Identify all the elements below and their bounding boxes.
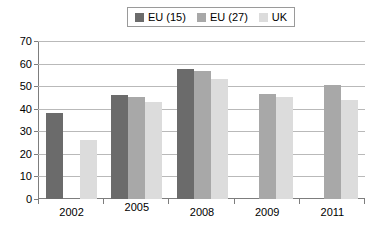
y-tick-mark — [34, 154, 38, 155]
bar-slot — [211, 41, 228, 199]
legend-item-eu27: EU (27) — [197, 12, 248, 23]
chart-legend: EU (15) EU (27) UK — [127, 7, 295, 27]
x-tick-mark — [299, 199, 300, 204]
y-tick-mark — [34, 176, 38, 177]
y-tick-mark — [34, 131, 38, 132]
y-tick-label: 0 — [26, 193, 32, 205]
bar-group — [169, 41, 234, 199]
x-tick-mark — [38, 199, 39, 204]
bar — [194, 71, 211, 199]
bar-group — [300, 41, 365, 199]
y-tick-label: 60 — [20, 58, 32, 70]
bar — [46, 113, 63, 199]
x-tick-mark — [364, 199, 365, 204]
legend-label-eu15: EU (15) — [148, 12, 186, 23]
x-axis-label: 2008 — [169, 205, 234, 223]
bar-group — [39, 41, 104, 199]
bar-slot — [324, 41, 341, 199]
bar-slot — [259, 41, 276, 199]
legend-swatch-uk — [259, 13, 268, 22]
bar — [276, 97, 293, 199]
bar — [324, 85, 341, 199]
legend-swatch-eu27 — [197, 13, 206, 22]
legend-label-uk: UK — [272, 12, 287, 23]
bar-group — [235, 41, 300, 199]
x-tick-mark — [234, 199, 235, 204]
bar — [211, 79, 228, 199]
legend-swatch-eu15 — [135, 13, 144, 22]
bar-slot — [46, 41, 63, 199]
y-tick-mark — [34, 64, 38, 65]
legend-item-uk: UK — [259, 12, 287, 23]
y-tick-label: 50 — [20, 80, 32, 92]
bar-slot — [307, 41, 324, 199]
bar — [80, 140, 97, 199]
legend-item-eu15: EU (15) — [135, 12, 186, 23]
bar-slot — [194, 41, 211, 199]
bar — [177, 69, 194, 199]
y-tick-mark — [34, 41, 38, 42]
x-axis-label: 2009 — [235, 205, 300, 223]
bar-slot — [145, 41, 162, 199]
legend-label-eu27: EU (27) — [210, 12, 248, 23]
x-axis-label: 2002 — [39, 205, 104, 223]
bar — [145, 102, 162, 199]
x-axis-labels: 20022005200820092011 — [39, 205, 365, 223]
bars-layer — [39, 41, 365, 199]
bar — [341, 100, 358, 199]
y-tick-label: 70 — [20, 35, 32, 47]
y-tick-label: 30 — [20, 125, 32, 137]
y-tick-label: 40 — [20, 103, 32, 115]
bar — [128, 97, 145, 199]
y-tick-mark — [34, 86, 38, 87]
bar-slot — [80, 41, 97, 199]
bar-chart: EU (15) EU (27) UK 010203040506070 20022… — [0, 0, 380, 236]
bar-group — [104, 41, 169, 199]
plot-area: 010203040506070 — [38, 41, 365, 199]
bar — [259, 94, 276, 199]
bar-slot — [341, 41, 358, 199]
x-axis-label: 2011 — [300, 205, 365, 223]
bar-slot — [177, 41, 194, 199]
bar-slot — [128, 41, 145, 199]
bar-slot — [111, 41, 128, 199]
bar — [111, 95, 128, 199]
bar-slot — [242, 41, 259, 199]
y-tick-label: 20 — [20, 148, 32, 160]
y-tick-mark — [34, 109, 38, 110]
bar-slot — [63, 41, 80, 199]
y-tick-label: 10 — [20, 170, 32, 182]
x-axis-label: 2005 — [104, 200, 169, 218]
bar-slot — [276, 41, 293, 199]
x-axis-ticks — [38, 199, 365, 204]
